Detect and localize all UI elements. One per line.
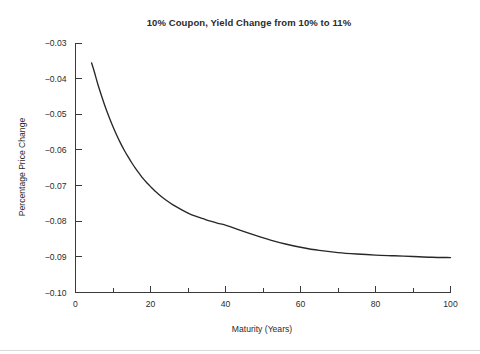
chart-title: 10% Coupon, Yield Change from 10% to 11% bbox=[147, 17, 352, 28]
x-tick-label: 20 bbox=[146, 299, 156, 309]
y-tick-label: −0.04 bbox=[45, 74, 67, 84]
y-axis-label: Percentage Price Change bbox=[17, 118, 27, 217]
x-tick-label: 100 bbox=[443, 299, 458, 309]
x-tick-label: 60 bbox=[296, 299, 306, 309]
y-tick-label: −0.03 bbox=[45, 38, 67, 48]
y-tick-label: −0.07 bbox=[45, 181, 67, 191]
x-tick-label: 0 bbox=[73, 299, 78, 309]
y-tick-label: −0.05 bbox=[45, 109, 67, 119]
x-tick-label: 40 bbox=[221, 299, 231, 309]
y-tick-label: −0.06 bbox=[45, 145, 67, 155]
x-axis-label: Maturity (Years) bbox=[232, 324, 292, 334]
price-change-chart: 10% Coupon, Yield Change from 10% to 11%… bbox=[0, 0, 480, 354]
y-tick-label: −0.08 bbox=[45, 216, 67, 226]
y-tick-label: −0.10 bbox=[45, 288, 67, 298]
y-tick-label: −0.09 bbox=[45, 252, 67, 262]
chart-background bbox=[0, 0, 480, 354]
x-tick-label: 80 bbox=[371, 299, 381, 309]
